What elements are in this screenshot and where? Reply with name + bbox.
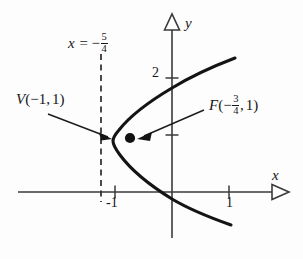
focus-label-close-paren: ) — [253, 97, 258, 113]
focus-label: F(− 3 4 ,1) — [209, 94, 258, 116]
vertex-annotation-arrowhead-icon — [99, 133, 112, 141]
x-axis-label: x — [272, 168, 279, 183]
vertex-label-name: V — [16, 91, 25, 107]
directrix-fraction-numerator: 5 — [101, 32, 108, 44]
focus-label-comma: , — [240, 97, 244, 113]
y-axis-arrowhead-icon — [165, 14, 180, 30]
x-tick-label-1: 1 — [226, 196, 233, 210]
directrix-label-prefix: x = — [68, 35, 89, 51]
focus-fraction-numerator: 3 — [232, 94, 239, 106]
focus-fraction-denominator: 4 — [232, 106, 239, 117]
y-tick-label-2: 2 — [152, 66, 159, 80]
x-axis-arrowhead-icon — [272, 185, 289, 200]
vertex-annotation-arrow-line — [48, 114, 108, 137]
focus-annotation-arrowhead-icon — [137, 132, 152, 141]
focus-label-sign: − — [223, 97, 231, 113]
focus-label-fraction: 3 4 — [232, 94, 239, 116]
x-tick-label-minus1: -1 — [106, 196, 118, 210]
figure-canvas — [0, 0, 303, 259]
vertex-label-close-paren: ) — [59, 91, 64, 107]
vertex-label-comma: , — [46, 91, 50, 107]
directrix-label-fraction: 5 4 — [101, 32, 108, 54]
directrix-fraction-denominator: 4 — [101, 44, 108, 55]
parabola-figure: x =− 5 4 V(−1,1) F(− 3 4 ,1) y x 2 -1 1 — [0, 0, 303, 259]
directrix-label: x =− 5 4 — [68, 32, 108, 54]
directrix-label-sign: − — [92, 35, 100, 51]
focus-annotation-arrow-line — [144, 110, 204, 136]
vertex-label-x-value: −1 — [30, 91, 46, 107]
focus-label-name: F — [209, 97, 218, 113]
focus-point-dot — [125, 133, 135, 143]
vertex-label: V(−1,1) — [16, 92, 64, 107]
y-axis-label: y — [185, 16, 192, 31]
